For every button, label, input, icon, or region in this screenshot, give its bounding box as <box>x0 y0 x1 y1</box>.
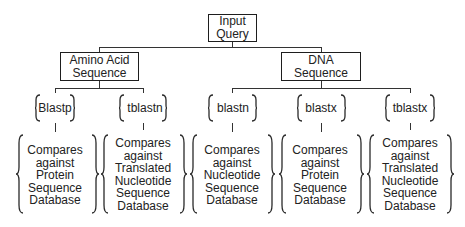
connector <box>410 123 411 130</box>
right-brace-icon <box>92 135 100 213</box>
connector <box>321 123 322 132</box>
connector <box>55 123 56 132</box>
right-brace-icon <box>180 135 188 213</box>
right-brace-icon <box>70 95 76 121</box>
dna-sequence-node: DNA Sequence <box>281 52 361 81</box>
connector <box>55 88 56 93</box>
right-brace-icon <box>268 135 276 213</box>
node-label-line: Query <box>216 28 249 41</box>
program-description: Compares against Protein Sequence Databa… <box>17 144 93 207</box>
connector <box>232 88 233 93</box>
node-label-line: Sequence <box>294 67 348 80</box>
program-description: Compares against Protein Sequence Databa… <box>282 144 358 207</box>
program-description: Compares against Translated Nucleotide S… <box>105 137 181 213</box>
right-brace-icon <box>341 95 347 121</box>
node-label-line: DNA <box>308 54 333 67</box>
right-brace-icon <box>430 95 436 121</box>
connector <box>232 88 411 89</box>
program-blastp: Blastp <box>25 102 85 115</box>
node-label-line: Sequence <box>72 67 126 80</box>
right-brace-icon <box>447 135 455 213</box>
program-description: Compares against Translated Nucleotide S… <box>372 137 448 213</box>
program-description: Compares against Nucleotide Sequence Dat… <box>194 144 270 207</box>
connector <box>99 47 321 48</box>
connector <box>99 81 100 88</box>
connector <box>143 123 144 130</box>
amino-acid-sequence-node: Amino Acid Sequence <box>60 52 139 81</box>
right-brace-icon <box>162 95 168 121</box>
connector <box>410 88 411 93</box>
connector <box>55 88 144 89</box>
right-brace-icon <box>357 135 365 213</box>
connector <box>321 81 322 88</box>
input-query-node: Input Query <box>208 14 257 42</box>
right-brace-icon <box>252 95 258 121</box>
node-label-line: Amino Acid <box>69 54 129 67</box>
connector <box>143 88 144 93</box>
connector <box>232 123 233 132</box>
